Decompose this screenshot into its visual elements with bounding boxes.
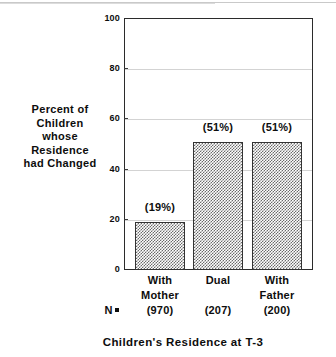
bar-series: (19%) (51%) (51%) (124, 18, 313, 270)
y-tick-label-100: 100 (97, 13, 120, 23)
y-tick-label-80: 80 (97, 63, 120, 73)
x-axis-title: Children's Residence at T-3 (0, 336, 336, 348)
x-category-with-father-line-2: Father (247, 288, 307, 303)
group-size-with-mother: (970) (130, 304, 190, 316)
y-tick-label-40: 40 (97, 164, 120, 174)
y-tick-label-0: 0 (97, 264, 120, 274)
equals-icon (115, 308, 119, 312)
chart-figure: Percent of Children whose Residence had … (0, 0, 336, 357)
group-size-dual: (207) (188, 304, 248, 316)
x-axis: With Mother Dual With Father (970) (207)… (124, 273, 313, 333)
bar-with-father (252, 142, 302, 270)
x-category-with-father: With Father (247, 273, 307, 303)
x-category-with-mother: With Mother (130, 273, 190, 303)
x-category-dual: Dual (188, 273, 248, 288)
scan-artifact-line-secondary (0, 3, 215, 4)
sample-size-prefix: N (0, 304, 124, 316)
group-size-with-father: (200) (247, 304, 307, 316)
y-tick-label-20: 20 (97, 214, 120, 224)
bar-dual (193, 142, 243, 270)
bar-with-mother (135, 222, 185, 270)
sample-size-prefix-letter: N (105, 304, 113, 316)
x-category-with-mother-line-2: Mother (130, 288, 190, 303)
x-category-dual-line-1: Dual (188, 273, 248, 288)
bar-value-with-mother: (19%) (130, 201, 190, 213)
y-axis-title-line-3: whose (6, 130, 114, 144)
x-category-with-mother-line-1: With (130, 273, 190, 288)
bar-value-dual: (51%) (188, 121, 248, 133)
y-axis-title-line-4: Residence (6, 144, 114, 158)
bar-value-with-father: (51%) (247, 121, 307, 133)
x-category-with-father-line-1: With (247, 273, 307, 288)
y-tick-label-60: 60 (97, 113, 120, 123)
